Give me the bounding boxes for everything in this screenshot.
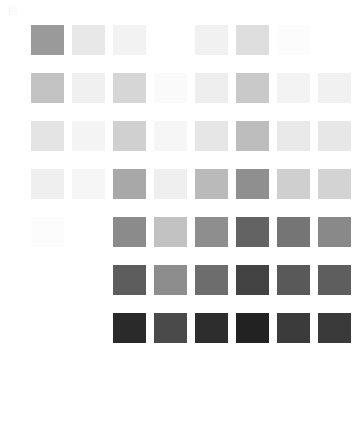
- color-swatch[interactable]: [318, 217, 351, 247]
- color-swatch[interactable]: [154, 313, 187, 343]
- color-swatch[interactable]: [236, 313, 269, 343]
- color-swatch[interactable]: [113, 217, 146, 247]
- color-swatch[interactable]: [113, 313, 146, 343]
- color-swatch[interactable]: [236, 217, 269, 247]
- color-swatch[interactable]: [277, 73, 310, 103]
- swatch-row: [0, 313, 362, 343]
- color-swatch[interactable]: [277, 121, 310, 151]
- color-swatch[interactable]: [277, 169, 310, 199]
- color-swatch[interactable]: [236, 265, 269, 295]
- color-swatch[interactable]: [195, 313, 228, 343]
- color-swatch[interactable]: [318, 265, 351, 295]
- color-swatch[interactable]: [31, 121, 64, 151]
- swatch-row: [0, 217, 362, 247]
- color-swatch[interactable]: [31, 169, 64, 199]
- color-swatch[interactable]: [154, 217, 187, 247]
- swatch-grid-canvas: [0, 0, 362, 425]
- color-swatch[interactable]: [277, 313, 310, 343]
- color-swatch[interactable]: [236, 25, 269, 55]
- color-swatch[interactable]: [195, 217, 228, 247]
- color-swatch[interactable]: [318, 313, 351, 343]
- color-swatch[interactable]: [318, 121, 351, 151]
- color-swatch[interactable]: [113, 265, 146, 295]
- color-swatch[interactable]: [195, 25, 228, 55]
- color-swatch[interactable]: [113, 121, 146, 151]
- color-swatch[interactable]: [195, 121, 228, 151]
- color-swatch[interactable]: [195, 73, 228, 103]
- color-swatch[interactable]: [277, 265, 310, 295]
- color-swatch[interactable]: [72, 73, 105, 103]
- color-swatch[interactable]: [31, 217, 64, 247]
- color-swatch[interactable]: [154, 169, 187, 199]
- color-swatch[interactable]: [31, 25, 64, 55]
- color-swatch[interactable]: [72, 121, 105, 151]
- color-swatch[interactable]: [236, 73, 269, 103]
- swatch-row: [0, 169, 362, 199]
- color-swatch[interactable]: [236, 169, 269, 199]
- color-swatch[interactable]: [113, 25, 146, 55]
- color-swatch[interactable]: [277, 217, 310, 247]
- color-swatch[interactable]: [154, 73, 187, 103]
- swatch-row: [0, 121, 362, 151]
- color-swatch[interactable]: [72, 25, 105, 55]
- swatch-row: [0, 73, 362, 103]
- color-swatch[interactable]: [31, 73, 64, 103]
- color-swatch[interactable]: [154, 265, 187, 295]
- color-swatch[interactable]: [195, 169, 228, 199]
- color-swatch[interactable]: [113, 169, 146, 199]
- swatch-row: [0, 265, 362, 295]
- color-swatch[interactable]: [318, 73, 351, 103]
- color-swatch[interactable]: [154, 121, 187, 151]
- color-swatch[interactable]: [113, 73, 146, 103]
- corner-mark-artifact: [9, 6, 17, 15]
- swatch-row: [0, 25, 362, 55]
- color-swatch[interactable]: [236, 121, 269, 151]
- color-swatch[interactable]: [195, 265, 228, 295]
- color-swatch[interactable]: [318, 169, 351, 199]
- color-swatch[interactable]: [277, 25, 310, 55]
- color-swatch[interactable]: [72, 169, 105, 199]
